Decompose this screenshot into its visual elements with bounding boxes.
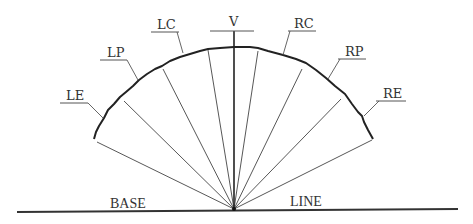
label-LP-text: LP: [107, 45, 125, 60]
label-LC-text: LC: [157, 17, 176, 32]
fan-diagram: LE LP LC V RC RP RE BASE LINE: [0, 0, 473, 224]
apex-point: [232, 207, 236, 211]
label-RC: RC: [283, 16, 316, 55]
ray-8: [234, 99, 341, 209]
label-RE: RE: [364, 86, 406, 116]
base-label-right: LINE: [290, 194, 322, 209]
ray-3: [163, 69, 234, 209]
ray-2: [124, 101, 234, 209]
base-line: [17, 209, 458, 212]
base-label-left: BASE: [110, 196, 146, 211]
label-LC: LC: [151, 17, 183, 53]
label-RE-text: RE: [383, 86, 402, 101]
label-LE-text: LE: [66, 88, 84, 103]
label-RP: RP: [328, 44, 366, 79]
label-V-text: V: [228, 14, 239, 29]
label-RP-text: RP: [345, 44, 364, 59]
label-LE: LE: [60, 88, 103, 118]
label-RC-text: RC: [294, 16, 314, 31]
label-V: V: [210, 14, 254, 31]
label-LP: LP: [100, 45, 138, 80]
ray-4: [208, 50, 234, 209]
